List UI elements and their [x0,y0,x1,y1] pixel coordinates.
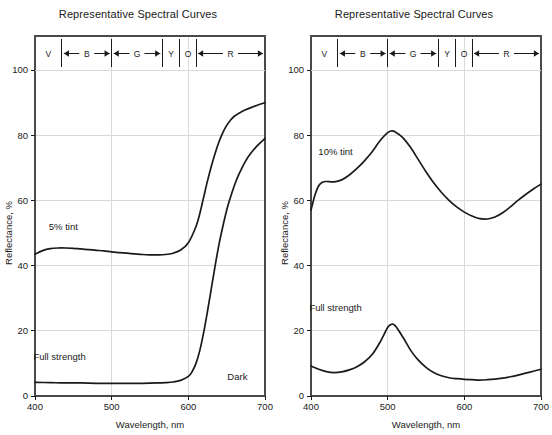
x-tick-label: 500 [380,401,396,412]
curve-annotation-full-strength: Full strength [309,302,361,313]
x-axis-label: Wavelength, nm [116,419,184,430]
band-label-y: Y [168,49,174,59]
band-label-g: G [134,49,141,59]
y-tick-label: 0 [299,390,304,401]
y-tick-label: 80 [293,130,304,141]
y-tick-label: 40 [293,260,304,271]
band-label-v: V [46,49,52,59]
y-axis-label: Reflectance, % [279,201,290,265]
curve-annotation-dark: Dark [227,371,247,382]
x-tick-label: 700 [257,401,273,412]
x-tick-label: 400 [27,401,43,412]
chart-panel-left: Representative Spectral Curves VBGYOR020… [0,0,276,435]
x-tick-label: 600 [180,401,196,412]
band-label-b: B [360,49,366,59]
x-tick-label: 700 [533,401,549,412]
chart-plot-right: VBGYOR020406080100400500600700Wavelength… [276,0,552,435]
band-label-b: B [84,49,90,59]
band-label-v: V [322,49,328,59]
band-label-y: Y [444,49,450,59]
y-tick-label: 60 [17,195,28,206]
x-axis-label: Wavelength, nm [392,419,460,430]
y-tick-label: 100 [288,64,304,75]
y-tick-label: 20 [17,325,28,336]
x-tick-label: 600 [456,401,472,412]
y-tick-label: 20 [293,325,304,336]
curve-annotation-10-tint: 10% tint [318,146,353,157]
curve-full-strength [311,324,541,380]
curve-annotation-5-tint: 5% tint [49,221,78,232]
y-tick-label: 60 [293,195,304,206]
band-label-o: O [185,49,192,59]
chart-plot-left: VBGYOR020406080100400500600700Wavelength… [0,0,276,435]
x-tick-label: 400 [303,401,319,412]
band-label-o: O [461,49,468,59]
curve-10-tint [311,131,541,219]
curve-annotation-full-strength: Full strength [33,351,85,362]
curve-full-strength [35,138,265,383]
y-tick-label: 100 [12,64,28,75]
band-label-r: R [503,49,509,59]
y-tick-label: 80 [17,130,28,141]
spectral-curves-figure: Representative Spectral Curves VBGYOR020… [0,0,552,435]
y-axis-label: Reflectance, % [3,201,14,265]
chart-panel-right: Representative Spectral Curves VBGYOR020… [276,0,552,435]
band-label-g: G [410,49,417,59]
y-tick-label: 0 [23,390,28,401]
curve-5-tint [35,103,265,255]
y-tick-label: 40 [17,260,28,271]
x-tick-label: 500 [104,401,120,412]
band-label-r: R [227,49,233,59]
